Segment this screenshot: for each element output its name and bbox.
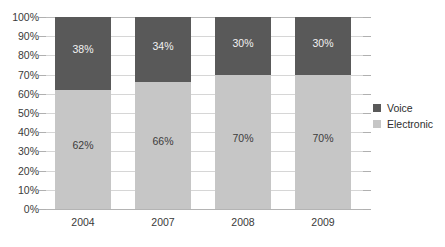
bar-segment-electronic[interactable]: 70%: [215, 75, 271, 209]
y-tick-label: 10%: [0, 185, 39, 195]
y-tick-mark-right: [363, 36, 371, 37]
bar-segment-label: 62%: [55, 140, 111, 151]
y-tick-mark: [39, 94, 46, 95]
legend: Voice Electronic: [373, 100, 445, 132]
bar-segment-electronic[interactable]: 66%: [135, 82, 191, 209]
bar-segment-voice[interactable]: 38%: [55, 17, 111, 90]
y-tick-mark-right: [363, 132, 371, 133]
y-tick-label: 60%: [0, 89, 39, 99]
x-tick-label: 2004: [55, 215, 111, 229]
y-tick-mark-right: [363, 17, 371, 18]
y-tick-mark-right: [363, 209, 371, 210]
bar-segment-electronic[interactable]: 70%: [295, 75, 351, 209]
y-tick-label: 50%: [0, 108, 39, 118]
x-tick-label: 2009: [295, 215, 351, 229]
bar-segment-electronic[interactable]: 62%: [55, 90, 111, 209]
y-tick-label: 70%: [0, 70, 39, 80]
plot-area: 38% 62% 34% 66% 30% 70%: [46, 17, 363, 209]
legend-label: Voice: [387, 102, 413, 114]
y-tick-mark-right: [363, 113, 371, 114]
gridline-0: [46, 209, 363, 210]
legend-swatch-icon: [373, 104, 381, 112]
y-tick-mark: [39, 55, 46, 56]
y-tick-mark-right: [363, 75, 371, 76]
y-tick-mark-right: [363, 190, 371, 191]
y-tick-label: 100%: [0, 12, 39, 22]
y-tick-mark: [39, 132, 46, 133]
x-axis: 2004 2007 2008 2009: [46, 212, 363, 232]
y-tick-label: 40%: [0, 127, 39, 137]
y-tick-label: 30%: [0, 146, 39, 156]
y-tick-label: 0%: [0, 204, 39, 214]
bar-segment-label: 30%: [215, 38, 271, 49]
y-tick-label: 80%: [0, 50, 39, 60]
y-tick-mark-right: [363, 94, 371, 95]
y-tick-mark-right: [363, 171, 371, 172]
y-tick-mark: [39, 171, 46, 172]
bar-segment-voice[interactable]: 30%: [295, 17, 351, 75]
legend-item-electronic[interactable]: Electronic: [373, 116, 445, 132]
y-tick-mark: [39, 75, 46, 76]
y-tick-mark-right: [363, 55, 371, 56]
bar-segment-voice[interactable]: 34%: [135, 17, 191, 82]
legend-swatch-icon: [373, 120, 381, 128]
y-tick-mark: [39, 209, 46, 210]
y-tick-mark: [39, 17, 46, 18]
bar-segment-label: 70%: [295, 133, 351, 144]
bar-group[interactable]: 34% 66%: [135, 17, 191, 209]
bar-segment-label: 70%: [215, 133, 271, 144]
y-tick-mark: [39, 151, 46, 152]
y-tick-label: 90%: [0, 31, 39, 41]
bar-group[interactable]: 38% 62%: [55, 17, 111, 209]
bar-segment-label: 66%: [135, 136, 191, 147]
bar-segment-label: 30%: [295, 38, 351, 49]
bar-segment-voice[interactable]: 30%: [215, 17, 271, 75]
bar-segment-label: 34%: [135, 41, 191, 52]
bar-segment-label: 38%: [55, 44, 111, 55]
x-tick-label: 2007: [135, 215, 191, 229]
y-axis: 100% 90% 80% 70% 60% 50% 40% 30% 20% 10%…: [0, 17, 39, 209]
bar-group[interactable]: 30% 70%: [295, 17, 351, 209]
y-tick-mark: [39, 36, 46, 37]
bar-group[interactable]: 30% 70%: [215, 17, 271, 209]
y-tick-mark: [39, 190, 46, 191]
x-tick-label: 2008: [215, 215, 271, 229]
y-tick-mark-right: [363, 151, 371, 152]
y-tick-mark: [39, 113, 46, 114]
legend-item-voice[interactable]: Voice: [373, 100, 445, 116]
stacked-bar-chart: 100% 90% 80% 70% 60% 50% 40% 30% 20% 10%…: [0, 0, 445, 247]
legend-label: Electronic: [387, 118, 433, 130]
y-tick-label: 20%: [0, 166, 39, 176]
